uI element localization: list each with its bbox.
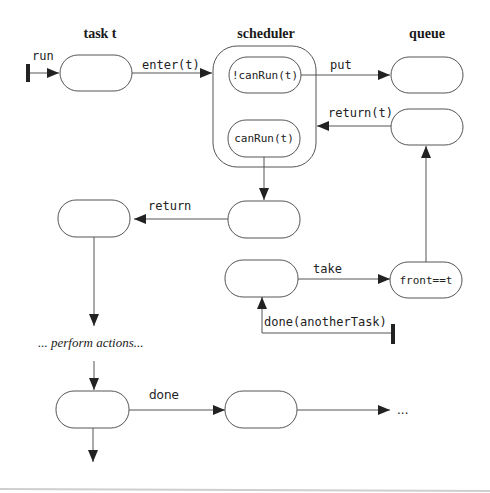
return-transition: return <box>134 199 228 219</box>
queue-put-state[interactable] <box>391 57 463 93</box>
return-label: return <box>148 199 191 213</box>
task-running-state[interactable] <box>58 200 130 237</box>
perform-actions-annotation: ... perform actions... <box>38 335 143 350</box>
front-eq-t-label: front==t <box>400 274 453 287</box>
return-t-label: return(t) <box>328 106 393 120</box>
return-t-transition: return(t) <box>317 106 393 126</box>
done-another-bar <box>391 324 395 344</box>
take-transition: take <box>298 262 390 279</box>
scheduler-done-state[interactable] <box>225 391 297 428</box>
can-run-label: canRun(t) <box>234 132 294 145</box>
task-done-state[interactable] <box>56 391 129 428</box>
page-edge-divider <box>0 489 490 491</box>
not-can-run-label: !canRun(t) <box>232 69 298 82</box>
task-initial-state[interactable] <box>60 55 132 91</box>
ellipsis-label: ... <box>397 403 408 417</box>
run-transition: run <box>26 49 59 82</box>
done-another-label: done(anotherTask) <box>264 315 387 329</box>
run-label: run <box>32 49 54 63</box>
task-column-header: task t <box>83 26 116 41</box>
initial-bar <box>26 64 30 82</box>
scheduler-dispatch-state[interactable] <box>228 201 300 238</box>
queue-return-state[interactable] <box>391 109 463 145</box>
take-label: take <box>313 262 342 276</box>
put-label: put <box>330 58 352 72</box>
enter-label: enter(t) <box>142 58 200 72</box>
scheduler-take-state[interactable] <box>225 260 298 297</box>
queue-column-header: queue <box>409 26 445 41</box>
done-transition: done <box>129 388 225 410</box>
done-label: done <box>149 388 179 402</box>
enter-transition: enter(t) <box>132 58 212 73</box>
done-another-transition: done(anotherTask) <box>262 297 395 344</box>
scheduler-column-header: scheduler <box>237 26 295 41</box>
